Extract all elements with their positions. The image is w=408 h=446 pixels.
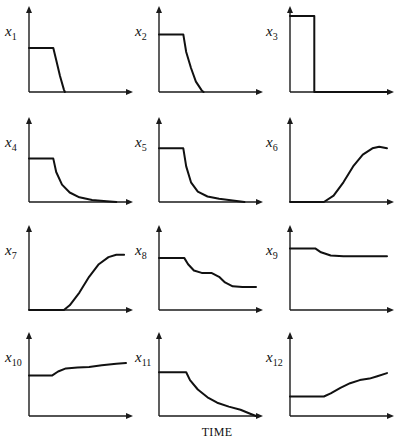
y-axis-label: x3 — [265, 23, 278, 42]
y-axis-label: x11 — [134, 349, 151, 368]
x-axis-arrow-icon — [126, 413, 133, 419]
response-curve — [159, 258, 256, 287]
x-axis-arrow-icon — [387, 199, 394, 205]
panel-7: x7 — [4, 225, 133, 313]
panel-2: x2 — [134, 6, 263, 95]
response-curve — [159, 372, 256, 416]
x-axis-arrow-icon — [256, 199, 263, 205]
x-axis-arrow-icon — [256, 89, 263, 95]
small-multiples-figure: x1x2x3x4x5x6x7x8x9x10x11x12 — [0, 0, 408, 446]
response-curve — [290, 16, 387, 92]
x-axis-arrow-icon — [256, 413, 263, 419]
y-axis-arrow-icon — [26, 225, 32, 232]
response-curve — [29, 48, 65, 92]
x-axis-arrow-icon — [387, 413, 394, 419]
y-axis-arrow-icon — [26, 6, 32, 13]
x-axis-label-time: TIME — [0, 425, 408, 440]
y-axis-arrow-icon — [156, 6, 162, 13]
y-axis-arrow-icon — [26, 117, 32, 124]
x-axis-arrow-icon — [387, 307, 394, 313]
y-axis-label: x7 — [4, 242, 17, 261]
y-axis-arrow-icon — [287, 6, 293, 13]
y-axis-label: x10 — [4, 349, 22, 368]
y-axis-arrow-icon — [156, 332, 162, 339]
y-axis-label: x1 — [4, 23, 17, 42]
response-curve — [159, 34, 204, 92]
panel-5: x5 — [134, 117, 263, 205]
x-axis-arrow-icon — [256, 307, 263, 313]
x-axis-arrow-icon — [126, 89, 133, 95]
panel-12: x12 — [265, 332, 394, 419]
panel-8: x8 — [134, 225, 263, 313]
panel-11: x11 — [134, 332, 263, 419]
x-axis-arrow-icon — [126, 307, 133, 313]
response-curve — [290, 373, 387, 396]
y-axis-label: x8 — [134, 242, 147, 261]
y-axis-arrow-icon — [26, 332, 32, 339]
y-axis-arrow-icon — [287, 117, 293, 124]
panel-4: x4 — [4, 117, 133, 205]
y-axis-label: x2 — [134, 23, 147, 42]
response-curve — [29, 255, 124, 310]
x-axis-arrow-icon — [387, 89, 394, 95]
y-axis-arrow-icon — [287, 332, 293, 339]
panel-1: x1 — [4, 6, 133, 95]
panel-3: x3 — [265, 6, 394, 95]
response-curve — [29, 363, 126, 375]
y-axis-arrow-icon — [156, 225, 162, 232]
y-axis-arrow-icon — [156, 117, 162, 124]
response-curve — [29, 159, 116, 202]
response-curve — [159, 148, 244, 202]
response-curve — [290, 147, 387, 202]
y-axis-label: x4 — [4, 134, 17, 153]
y-axis-label: x12 — [265, 349, 283, 368]
panel-10: x10 — [4, 332, 133, 419]
x-axis-arrow-icon — [126, 199, 133, 205]
response-curve — [290, 248, 387, 256]
y-axis-label: x9 — [265, 242, 278, 261]
panel-6: x6 — [265, 117, 394, 205]
panel-9: x9 — [265, 225, 394, 313]
y-axis-arrow-icon — [287, 225, 293, 232]
y-axis-label: x6 — [265, 134, 278, 153]
y-axis-label: x5 — [134, 134, 147, 153]
